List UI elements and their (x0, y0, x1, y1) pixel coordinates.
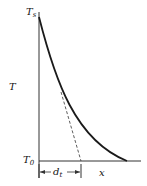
arrow-head-left-icon (40, 170, 45, 174)
tangent-dashed-line (61, 92, 81, 161)
label-ts-main: T (26, 6, 33, 17)
label-dt-sub: t (59, 171, 62, 179)
label-t0-sub: 0 (30, 159, 34, 167)
label-ts-sub: s (33, 11, 37, 19)
label-t0: T0 (23, 155, 34, 167)
label-t0-main: T (23, 154, 30, 165)
label-ts: Ts (26, 7, 36, 19)
label-dt: dt (53, 167, 62, 179)
label-x-axis: x (99, 168, 105, 178)
arrow-head-right-icon (75, 170, 80, 174)
label-t-axis: T (9, 82, 16, 92)
temperature-profile-curve (39, 17, 127, 161)
